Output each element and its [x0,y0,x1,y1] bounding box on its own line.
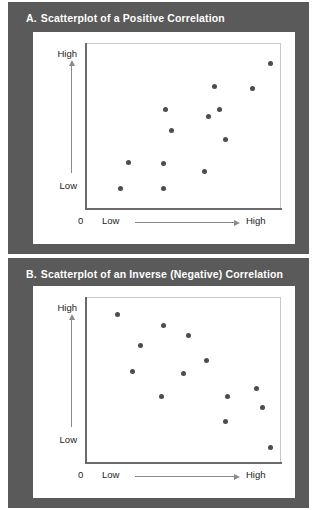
panel-b-plot: High Low 0 Low High [33,286,295,498]
panel-b-y-high-label: High [35,302,77,313]
panel-b: B.Scatterplot of an Inverse (Negative) C… [8,258,309,508]
data-point [268,445,273,450]
panel-b-card: High Low 0 Low High [33,286,295,498]
panel-a-title: A.Scatterplot of a Positive Correlation [26,12,225,24]
panel-a-y-low-label: Low [35,180,77,191]
panel-b-plot-frame [85,297,281,463]
data-point [161,186,166,191]
right-arrow-icon [135,476,235,477]
panel-b-x-low-label: Low [102,469,119,480]
panel-b-y-low-label: Low [35,434,77,445]
data-point [254,386,259,391]
panel-a-plot: High Low 0 Low High [33,32,295,244]
panel-a-card: High Low 0 Low High [33,32,295,244]
data-point [212,84,217,89]
data-point [223,137,228,142]
panel-a-x-origin-label: 0 [78,215,83,226]
panel-b-title-text: Scatterplot of an Inverse (Negative) Cor… [41,268,283,280]
up-arrow-icon [71,65,72,173]
data-point [268,61,273,66]
data-point [206,114,211,119]
panel-a-x-high-label: High [246,215,266,226]
panel-b-x-axis-line [85,462,282,464]
data-point [225,394,230,399]
panel-a-plot-frame [85,43,281,209]
data-point [223,419,228,424]
panel-b-y-axis-line [85,297,87,464]
right-arrow-icon [135,222,235,223]
panel-a: A.Scatterplot of a Positive Correlation … [8,2,309,254]
panel-a-x-axis-line [85,208,282,210]
panel-b-x-high-label: High [246,469,266,480]
panel-a-x-low-label: Low [102,215,119,226]
panel-a-y-axis-line [85,43,87,210]
panel-b-letter: B. [26,268,37,280]
panel-b-x-axis-labels: 0 Low High [33,469,295,485]
figure-root: A.Scatterplot of a Positive Correlation … [0,0,317,510]
data-point [204,358,209,363]
panel-b-title: B.Scatterplot of an Inverse (Negative) C… [26,268,283,280]
panel-b-x-origin-label: 0 [78,469,83,480]
panel-a-letter: A. [26,12,37,24]
data-point [126,160,131,165]
panel-a-y-high-label: High [35,48,77,59]
data-point [138,343,143,348]
panel-a-title-text: Scatterplot of a Positive Correlation [41,12,225,24]
up-arrow-icon [71,319,72,427]
panel-a-x-axis-labels: 0 Low High [33,215,295,231]
data-point [181,371,186,376]
data-point [115,312,120,317]
